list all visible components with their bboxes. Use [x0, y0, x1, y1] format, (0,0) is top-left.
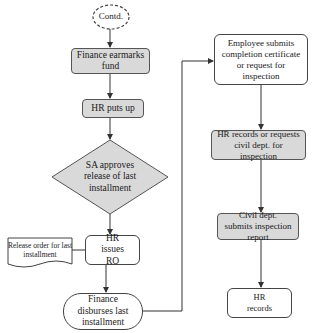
finance-disburses-node: Finance disburses last installment — [63, 293, 143, 330]
contd-label: Contd. — [93, 8, 129, 26]
sa-approves-label: SA approves release of last installment — [78, 158, 142, 196]
finance-earmarks-fund-node: Finance earmarks fund — [71, 48, 150, 74]
release-order-label: Release order for last installment — [8, 239, 72, 261]
hr-puts-up-node: HR puts up — [82, 99, 144, 118]
employee-submits-node: Employee submits completion certificate … — [214, 34, 308, 85]
hr-issues-ro-node: HR issues RO — [85, 235, 140, 265]
hr-records-node: HR records — [227, 288, 292, 318]
hr-records-requests-node: HR records or requests civil dept. for i… — [211, 130, 306, 160]
civil-dept-submits-node: Civil dept. submits inspection report — [217, 213, 299, 240]
